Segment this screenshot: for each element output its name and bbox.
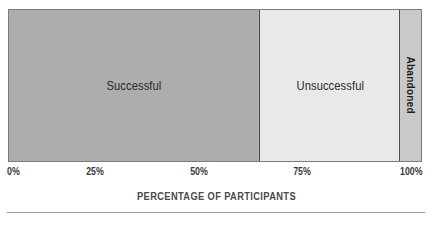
bar-segment-label-successful: Successful [107, 78, 162, 93]
chart-figure: · · · Successful Unsuccessful Abandoned … [0, 0, 432, 225]
bar-segment-unsuccessful[interactable]: Unsuccessful [260, 10, 400, 161]
x-tick-label-100: 100% [400, 166, 423, 177]
x-axis-title-text: PERCENTAGE OF PARTICIPANTS [136, 191, 295, 202]
x-tick-label-25: 25% [86, 166, 104, 177]
x-axis: 0% 25% 50% 75% 100% [0, 163, 432, 187]
stacked-bar-plot-area: Successful Unsuccessful Abandoned [8, 9, 422, 162]
bar-segment-label-unsuccessful: Unsuccessful [296, 78, 364, 93]
bar-segment-abandoned[interactable]: Abandoned [400, 10, 421, 161]
clipped-top-caption: · · · [0, 0, 432, 1]
bottom-divider-rule [7, 212, 425, 213]
x-tick-label-0: 0% [7, 166, 20, 177]
x-axis-title: PERCENTAGE OF PARTICIPANTS [0, 191, 432, 202]
x-tick-label-75: 75% [293, 166, 311, 177]
x-tick-label-50: 50% [190, 166, 208, 177]
bar-segment-label-abandoned: Abandoned [405, 57, 417, 114]
bar-segment-successful[interactable]: Successful [9, 10, 260, 161]
